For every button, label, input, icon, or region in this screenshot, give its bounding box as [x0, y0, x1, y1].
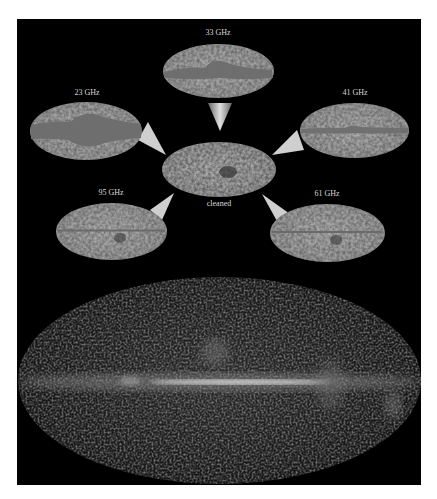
foreground-map	[18, 277, 421, 484]
map-95ghz	[56, 203, 167, 260]
label-33ghz: 33 GHz	[178, 28, 258, 37]
map-cleaned	[162, 142, 276, 197]
map-61ghz	[270, 204, 385, 262]
label-cleaned: cleaned	[179, 199, 259, 208]
label-23ghz: 23 GHz	[47, 88, 127, 97]
label-61ghz: 61 GHz	[287, 189, 367, 198]
map-23ghz	[30, 102, 142, 160]
frequency-map-diagram	[0, 0, 437, 499]
label-95ghz: 95 GHz	[71, 188, 151, 197]
map-33ghz	[163, 44, 274, 98]
arrow-41-to-cleaned	[272, 130, 304, 155]
map-41ghz	[300, 103, 409, 158]
arrow-23-to-cleaned	[138, 122, 166, 155]
label-41ghz: 41 GHz	[315, 88, 395, 97]
arrow-33-to-cleaned	[208, 103, 232, 131]
